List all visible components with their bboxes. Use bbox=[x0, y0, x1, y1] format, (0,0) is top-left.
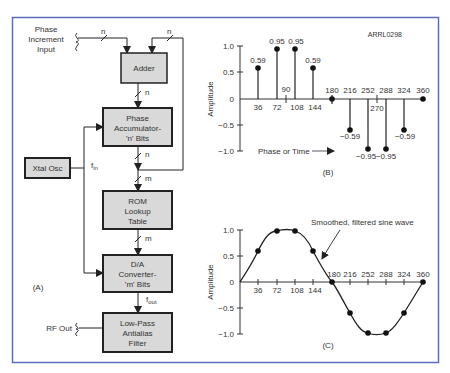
value-label: −0.59 bbox=[395, 132, 416, 141]
sample-point bbox=[365, 330, 371, 336]
annotation-label: Smoothed, filtered sine wave bbox=[311, 218, 414, 227]
sample-point bbox=[274, 46, 280, 52]
bus-width-n-feedback: n bbox=[167, 27, 171, 36]
sample-point bbox=[365, 146, 371, 152]
rf-out-brace-icon bbox=[76, 323, 79, 336]
y-axis-label: Amplitude bbox=[206, 81, 215, 117]
accumulator-label-3: 'n' Bits bbox=[126, 134, 149, 143]
x-tick-label: 324 bbox=[397, 270, 411, 279]
y-tick-label: −1.0 bbox=[218, 330, 234, 339]
bus-width-n-adder: n bbox=[145, 88, 149, 97]
bus-width-n-acc: n bbox=[145, 150, 149, 159]
panel-b-label: (B) bbox=[323, 168, 334, 177]
sample-point bbox=[383, 330, 389, 336]
sample-point bbox=[420, 279, 426, 285]
annotation-arrow-icon bbox=[322, 230, 340, 259]
x-axis-label: Phase or Time bbox=[258, 147, 310, 156]
accumulator-label-1: Phase bbox=[126, 114, 149, 123]
panel-b-stem-chart: ARRL0298 1.0 0.5 0 −0.5 −1.0 Amplitude 9… bbox=[206, 31, 430, 177]
x-tick-label: 288 bbox=[379, 270, 393, 279]
x-tick-label: 180 bbox=[325, 86, 339, 95]
phase-input-label-1: Phase bbox=[35, 25, 58, 34]
y-tick-label: 0.5 bbox=[223, 252, 235, 261]
accumulator-label-2: Accumulator- bbox=[114, 124, 161, 133]
x-tick-label: 252 bbox=[361, 270, 375, 279]
bus-width-m-rom-in: m bbox=[145, 174, 152, 183]
x-tick-label: 144 bbox=[308, 103, 322, 112]
input-bus-line bbox=[78, 38, 127, 53]
y-tick-label: 0 bbox=[230, 95, 235, 104]
tick-270-label: 270 bbox=[370, 104, 384, 113]
rf-out-label: RF Out bbox=[46, 324, 73, 333]
filter-label-1: Low-Pass bbox=[120, 319, 155, 328]
x-tick-label: 324 bbox=[397, 86, 411, 95]
sample-point bbox=[401, 310, 407, 316]
sample-point bbox=[274, 228, 280, 234]
value-label: 0.59 bbox=[305, 56, 321, 65]
y-tick-label: 1.0 bbox=[223, 42, 235, 51]
value-label: −0.59 bbox=[340, 132, 361, 141]
sample-point bbox=[292, 46, 298, 52]
phase-input-label-3: Input bbox=[37, 45, 56, 54]
x-tick-label: 108 bbox=[290, 103, 304, 112]
input-brace-icon bbox=[76, 33, 79, 51]
x-tick-label: 360 bbox=[416, 270, 430, 279]
y-axis-label: Amplitude bbox=[206, 264, 215, 300]
sample-point bbox=[255, 65, 261, 71]
x-tick-label: 72 bbox=[273, 286, 282, 295]
adder-label: Adder bbox=[133, 64, 155, 73]
xtal-osc-label: Xtal Osc bbox=[32, 164, 62, 173]
sample-point bbox=[310, 65, 316, 71]
dac-label-2: Converter- bbox=[119, 270, 157, 279]
panel-c-label: (C) bbox=[322, 341, 333, 350]
rom-label-2: Lookup bbox=[124, 207, 151, 216]
f-in-label: fin bbox=[91, 161, 98, 171]
x-tick-label: 36 bbox=[254, 286, 263, 295]
rom-label-1: ROM bbox=[128, 197, 147, 206]
y-tick-label: −0.5 bbox=[218, 121, 234, 130]
value-label: 0.95 bbox=[288, 37, 304, 46]
panel-a-block-diagram: Phase Increment Input n n Adder n Phase … bbox=[25, 25, 183, 352]
tick-90-label: 90 bbox=[282, 85, 291, 94]
value-label: −0.95 bbox=[356, 152, 377, 161]
phase-input-label-2: Increment bbox=[28, 35, 64, 44]
value-label: −0.95 bbox=[376, 152, 397, 161]
y-tick-label: 1.0 bbox=[223, 226, 235, 235]
dac-label-1: D/A bbox=[131, 260, 145, 269]
x-tick-label: 72 bbox=[273, 103, 282, 112]
y-tick-label: 0 bbox=[230, 278, 235, 287]
y-tick-label: −0.5 bbox=[218, 304, 234, 313]
dds-figure: Phase Increment Input n n Adder n Phase … bbox=[0, 0, 450, 373]
bus-width-m-rom-out: m bbox=[145, 234, 152, 243]
y-tick-label: 0.5 bbox=[223, 68, 235, 77]
sample-point bbox=[310, 248, 316, 254]
x-tick-label: 252 bbox=[361, 86, 375, 95]
filter-label-3: Filter bbox=[129, 339, 147, 348]
figure-id: ARRL0298 bbox=[368, 31, 402, 38]
rom-label-3: Table bbox=[128, 217, 148, 226]
x-tick-label: 216 bbox=[343, 270, 357, 279]
x-tick-label: 288 bbox=[379, 86, 393, 95]
x-tick-label: 216 bbox=[343, 86, 357, 95]
panel-c-sine-chart: 1.0 0.5 0 −0.5 −1.0 Amplitude bbox=[206, 218, 430, 350]
x-tick-label: 180 bbox=[327, 270, 341, 279]
sample-point bbox=[383, 146, 389, 152]
sample-point bbox=[420, 96, 426, 102]
value-label: 0.59 bbox=[250, 56, 266, 65]
sample-point bbox=[347, 310, 353, 316]
dac-label-3: 'm' Bits bbox=[125, 280, 150, 289]
sample-point bbox=[255, 248, 261, 254]
y-tick-label: −1.0 bbox=[218, 147, 234, 156]
f-out-label: fout bbox=[146, 295, 157, 305]
filter-label-2: Antialias bbox=[122, 329, 152, 338]
panel-a-label: (A) bbox=[33, 283, 44, 292]
value-label: 0.95 bbox=[269, 37, 285, 46]
bus-width-n-input: n bbox=[101, 27, 105, 36]
sample-point bbox=[292, 228, 298, 234]
x-tick-label: 36 bbox=[254, 103, 263, 112]
x-tick-label: 144 bbox=[308, 286, 322, 295]
x-tick-label: 108 bbox=[290, 286, 304, 295]
sample-point bbox=[329, 279, 335, 285]
x-tick-label: 360 bbox=[416, 86, 430, 95]
